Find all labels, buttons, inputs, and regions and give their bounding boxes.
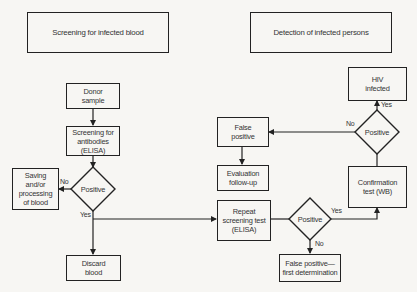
edge-label-d2-no: No bbox=[315, 240, 324, 247]
edge-label-d3-yes: Yes bbox=[381, 101, 392, 108]
decision-3-label: Positive bbox=[359, 128, 395, 137]
edge-label-d3-no: No bbox=[346, 120, 355, 127]
node-screening-elisa: Screening for antibodies (ELISA) bbox=[66, 126, 120, 156]
decision-2-label: Positive bbox=[292, 215, 328, 224]
node-evaluation-followup: Evaluation follow-up bbox=[217, 165, 269, 191]
node-repeat-screening: Repeat screening test (ELISA) bbox=[217, 200, 271, 241]
header-right-label: Detection of infected persons bbox=[273, 28, 368, 37]
node-hiv-infected: HIV infected bbox=[348, 67, 407, 101]
edge-label-d1-no: No bbox=[60, 178, 69, 185]
flowchart-canvas: Screening for infected blood Detection o… bbox=[0, 0, 417, 292]
edge-label-d2-yes: Yes bbox=[331, 207, 342, 214]
node-saving-processing: Saving and/or processing of blood bbox=[12, 168, 59, 210]
decision-1-label: Positive bbox=[75, 185, 111, 194]
node-confirmation-test: Confirmation test (WB) bbox=[348, 166, 407, 208]
header-detection-persons: Detection of infected persons bbox=[250, 12, 392, 53]
header-left-label: Screening for infected blood bbox=[52, 28, 144, 37]
node-donor-sample: Donor sample bbox=[66, 83, 120, 109]
node-false-positive: False positive bbox=[217, 117, 269, 147]
edge-label-d1-yes: Yes bbox=[80, 211, 91, 218]
node-false-positive-first: False positive— first determination bbox=[279, 254, 341, 282]
header-screening-blood: Screening for infected blood bbox=[27, 12, 169, 53]
node-discard-blood: Discard blood bbox=[66, 255, 121, 281]
